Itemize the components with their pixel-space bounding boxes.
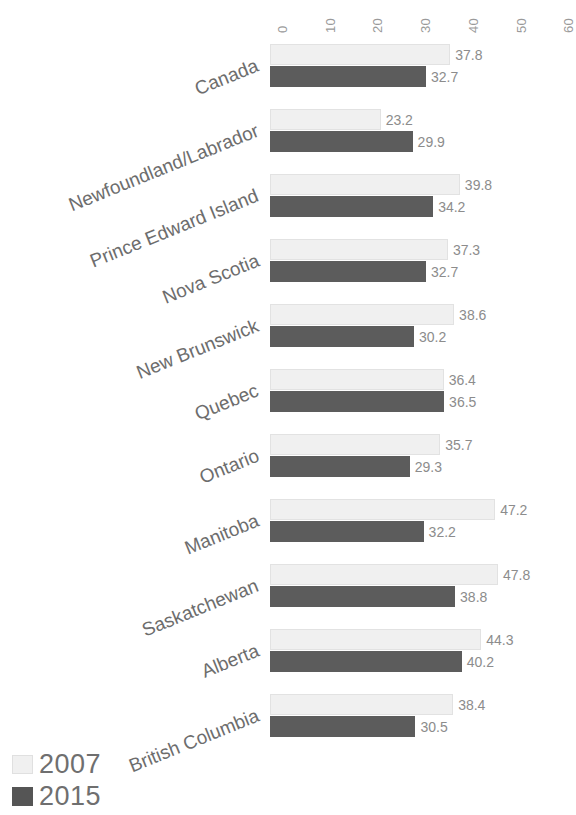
category-label: Quebec bbox=[192, 380, 262, 425]
bar-value-label: 35.7 bbox=[445, 438, 472, 452]
bar-row: 32.7 bbox=[270, 66, 458, 87]
x-tick-label: 0 bbox=[275, 26, 290, 33]
bar-row: 30.5 bbox=[270, 716, 448, 737]
bar-2007[interactable] bbox=[270, 564, 498, 585]
bar-2007[interactable] bbox=[270, 434, 440, 455]
bar-value-label: 36.5 bbox=[449, 395, 476, 409]
bar-row: 38.8 bbox=[270, 586, 487, 607]
bar-value-label: 29.9 bbox=[418, 135, 445, 149]
bar-2007[interactable] bbox=[270, 694, 453, 715]
category-label: Alberta bbox=[198, 640, 262, 683]
bar-2015[interactable] bbox=[270, 196, 433, 217]
bar-2015[interactable] bbox=[270, 326, 414, 347]
bar-group: 37.832.7 bbox=[270, 44, 570, 88]
bar-value-label: 34.2 bbox=[438, 200, 465, 214]
x-tick-label: 20 bbox=[370, 18, 385, 33]
category-label: New Brunswick bbox=[133, 315, 262, 384]
legend-item-2007[interactable]: 2007 bbox=[12, 748, 101, 780]
plot-area: 37.832.723.229.939.834.237.332.738.630.2… bbox=[270, 44, 570, 744]
bar-2007[interactable] bbox=[270, 499, 495, 520]
bar-2015[interactable] bbox=[270, 456, 410, 477]
bar-value-label: 47.2 bbox=[500, 503, 527, 517]
bar-group: 44.340.2 bbox=[270, 629, 570, 673]
bar-value-label: 36.4 bbox=[449, 373, 476, 387]
bar-value-label: 29.3 bbox=[415, 460, 442, 474]
chart-legend: 2007 2015 bbox=[12, 748, 101, 812]
bar-group: 37.332.7 bbox=[270, 239, 570, 283]
bar-row: 47.8 bbox=[270, 564, 530, 585]
bar-2015[interactable] bbox=[270, 66, 426, 87]
bar-row: 36.4 bbox=[270, 369, 476, 390]
bar-group: 36.436.5 bbox=[270, 369, 570, 413]
bar-2015[interactable] bbox=[270, 651, 462, 672]
bar-row: 40.2 bbox=[270, 651, 494, 672]
legend-swatch-2007 bbox=[12, 755, 33, 774]
bar-2007[interactable] bbox=[270, 109, 381, 130]
legend-label-2007: 2007 bbox=[39, 751, 101, 778]
category-label: Ontario bbox=[196, 445, 262, 489]
bar-row: 30.2 bbox=[270, 326, 446, 347]
bar-2007[interactable] bbox=[270, 304, 454, 325]
bar-value-label: 37.8 bbox=[455, 48, 482, 62]
x-tick-label: 40 bbox=[466, 18, 481, 33]
bar-row: 29.3 bbox=[270, 456, 442, 477]
category-label: Saskatchewan bbox=[139, 575, 262, 642]
legend-item-2015[interactable]: 2015 bbox=[12, 780, 101, 812]
bar-row: 29.9 bbox=[270, 131, 445, 152]
bar-value-label: 44.3 bbox=[486, 633, 513, 647]
bar-row: 38.4 bbox=[270, 694, 485, 715]
x-tick-label: 10 bbox=[323, 18, 338, 33]
bar-value-label: 40.2 bbox=[467, 655, 494, 669]
bar-group: 23.229.9 bbox=[270, 109, 570, 153]
bar-value-label: 30.2 bbox=[419, 330, 446, 344]
bar-value-label: 32.7 bbox=[431, 265, 458, 279]
bar-value-label: 32.2 bbox=[429, 525, 456, 539]
category-label: Nova Scotia bbox=[159, 250, 262, 309]
category-label: British Columbia bbox=[126, 705, 262, 777]
legend-swatch-2015 bbox=[12, 787, 33, 806]
category-axis-labels: CanadaNewfoundland/LabradorPrince Edward… bbox=[0, 0, 270, 760]
bar-2015[interactable] bbox=[270, 716, 415, 737]
bar-row: 32.7 bbox=[270, 261, 458, 282]
bar-value-label: 38.8 bbox=[460, 590, 487, 604]
legend-label-2015: 2015 bbox=[39, 783, 101, 810]
bar-group: 35.729.3 bbox=[270, 434, 570, 478]
bar-row: 32.2 bbox=[270, 521, 456, 542]
bar-2015[interactable] bbox=[270, 261, 426, 282]
bar-group: 47.838.8 bbox=[270, 564, 570, 608]
bar-2007[interactable] bbox=[270, 44, 450, 65]
bar-2007[interactable] bbox=[270, 239, 448, 260]
bar-row: 34.2 bbox=[270, 196, 465, 217]
x-tick-label: 50 bbox=[514, 18, 529, 33]
bar-row: 37.3 bbox=[270, 239, 480, 260]
x-tick-label: 60 bbox=[561, 18, 576, 33]
bar-value-label: 47.8 bbox=[503, 568, 530, 582]
bar-row: 47.2 bbox=[270, 499, 527, 520]
bar-2015[interactable] bbox=[270, 586, 455, 607]
bar-value-label: 38.4 bbox=[458, 698, 485, 712]
bar-value-label: 30.5 bbox=[420, 720, 447, 734]
bar-2007[interactable] bbox=[270, 369, 444, 390]
bar-row: 36.5 bbox=[270, 391, 476, 412]
bar-group: 38.630.2 bbox=[270, 304, 570, 348]
bar-2007[interactable] bbox=[270, 174, 460, 195]
bar-group: 39.834.2 bbox=[270, 174, 570, 218]
bar-2015[interactable] bbox=[270, 391, 444, 412]
bar-row: 38.6 bbox=[270, 304, 486, 325]
bar-row: 39.8 bbox=[270, 174, 492, 195]
bar-row: 35.7 bbox=[270, 434, 473, 455]
bar-value-label: 32.7 bbox=[431, 70, 458, 84]
bar-value-label: 38.6 bbox=[459, 308, 486, 322]
bar-row: 37.8 bbox=[270, 44, 483, 65]
bar-row: 23.2 bbox=[270, 109, 413, 130]
bar-group: 38.430.5 bbox=[270, 694, 570, 738]
x-tick-label: 30 bbox=[418, 18, 433, 33]
bar-2015[interactable] bbox=[270, 131, 413, 152]
category-label: Canada bbox=[192, 55, 262, 100]
bar-value-label: 23.2 bbox=[386, 113, 413, 127]
bar-2007[interactable] bbox=[270, 629, 481, 650]
category-label: Manitoba bbox=[181, 510, 262, 560]
bar-2015[interactable] bbox=[270, 521, 424, 542]
bar-value-label: 39.8 bbox=[465, 178, 492, 192]
